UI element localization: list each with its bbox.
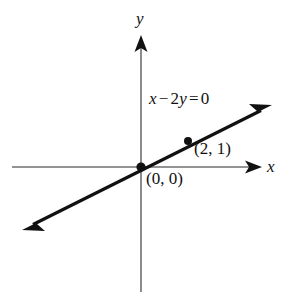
equation-coefficient: 2	[171, 89, 180, 108]
point-2-1-marker	[184, 137, 192, 145]
equation-variable-y: y	[179, 89, 187, 108]
graph-figure: y x x−2y=0 (2, 1) (0, 0)	[0, 0, 282, 292]
equation-label: x−2y=0	[149, 90, 210, 107]
equation-variable-x: x	[149, 89, 157, 108]
point-2-1-label: (2, 1)	[194, 140, 231, 157]
equation-equals-sign: =	[187, 89, 201, 108]
point-origin-label: (0, 0)	[146, 170, 183, 187]
equation-right-hand-side: 0	[201, 89, 210, 108]
point-origin-marker	[136, 162, 145, 171]
x-axis-label: x	[267, 158, 275, 175]
equation-minus-sign: −	[157, 89, 171, 108]
graph-canvas	[0, 0, 282, 292]
y-axis-label: y	[136, 10, 144, 27]
